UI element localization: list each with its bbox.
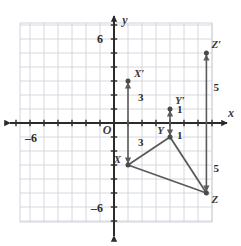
measure-label-z-lower: 5 <box>213 162 219 174</box>
measure-label-y-upper: 1 <box>177 103 183 115</box>
coordinate-plane-figure: x y O –6 6 –6 X Y Z X′ Y′ Z′ 3 3 1 1 5 5 <box>0 0 241 246</box>
point-label-Z: Z <box>210 193 218 205</box>
vertex-dot <box>126 163 131 168</box>
point-label-Z-prime: Z′ <box>210 38 221 50</box>
y-tick-label-neg6: –6 <box>90 201 103 215</box>
vertex-dot <box>204 191 209 196</box>
vertex-dot <box>168 135 173 140</box>
measure-label-x-lower: 3 <box>138 136 144 148</box>
vertex-dot <box>126 79 131 84</box>
origin-label: O <box>103 123 112 137</box>
y-axis-label: y <box>120 13 128 27</box>
vertex-dot <box>168 107 173 112</box>
point-label-X-prime: X′ <box>133 67 144 79</box>
x-axis-label: x <box>227 106 234 120</box>
y-tick-label-6: 6 <box>97 32 103 46</box>
x-tick-label-neg6: –6 <box>24 131 37 145</box>
measure-label-y-lower: 1 <box>177 129 183 141</box>
point-label-X: X <box>113 153 122 165</box>
coordinate-plane-svg: x y O –6 6 –6 X Y Z X′ Y′ Z′ 3 3 1 1 5 5 <box>0 0 241 246</box>
measure-label-x-upper: 3 <box>138 91 144 103</box>
measure-label-z-upper: 5 <box>213 81 219 93</box>
vertex-dot <box>204 51 209 56</box>
